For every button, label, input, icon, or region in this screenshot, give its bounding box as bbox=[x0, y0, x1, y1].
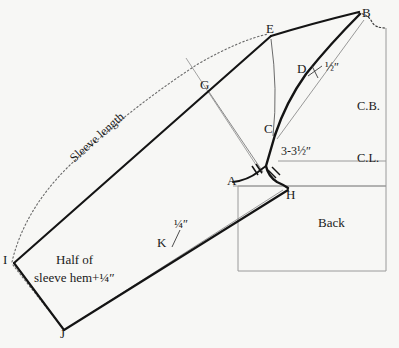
construction-line-crossing-to-underarm bbox=[186, 58, 262, 174]
diagram-vector-layer bbox=[0, 0, 399, 348]
back-block-rectangle bbox=[238, 186, 386, 271]
point-label-J: J bbox=[60, 327, 65, 340]
label-back-region: Back bbox=[318, 216, 345, 229]
point-label-C: C bbox=[264, 122, 273, 135]
dimension-bust-range: 3-3½″ bbox=[281, 145, 311, 157]
point-label-E: E bbox=[266, 22, 274, 35]
leader-quarter-inch bbox=[172, 230, 180, 247]
pattern-diagram-canvas: A B C D E G H I J K ½″ ¼″ 3-3½″ C.B. C.L… bbox=[0, 0, 399, 348]
sleeve-lower-seam-h-to-j bbox=[64, 190, 288, 330]
dimension-half-inch: ½″ bbox=[325, 61, 339, 73]
label-center-back: C.B. bbox=[357, 100, 380, 113]
sleeve-upper-dotted-arc bbox=[12, 34, 268, 262]
label-sleeve-hem-line2: sleeve hem+¼″ bbox=[34, 271, 115, 284]
point-label-A: A bbox=[227, 174, 236, 187]
sleeve-upper-edge-i-to-e bbox=[14, 36, 271, 263]
point-label-K: K bbox=[157, 236, 166, 249]
point-label-H: H bbox=[286, 188, 295, 201]
label-sleeve-hem-line1: Half of bbox=[56, 253, 93, 266]
construction-line-g-to-underarm bbox=[209, 92, 263, 172]
point-label-G: G bbox=[200, 78, 209, 91]
label-center-line: C.L. bbox=[357, 152, 379, 165]
point-label-D: D bbox=[297, 62, 306, 75]
shoulder-line-e-to-b bbox=[271, 12, 359, 36]
dimension-quarter-inch: ¼″ bbox=[174, 218, 188, 230]
point-label-I: I bbox=[3, 253, 7, 266]
construction-line-b-to-c bbox=[277, 20, 364, 139]
point-label-B: B bbox=[362, 6, 371, 19]
